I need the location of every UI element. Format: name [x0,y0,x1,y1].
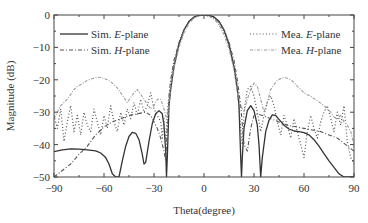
x-tick-label: 60 [299,182,311,194]
legend-label: Mea. E-plane [281,28,340,40]
x-tick-label: 90 [349,182,361,194]
y-tick-label: −40 [33,139,51,151]
legend-item: Sim. H-plane [60,44,150,56]
legend-label: Sim. E-plane [91,28,149,40]
y-tick-label: −50 [33,171,51,183]
y-tick-label: −10 [33,41,51,53]
x-tick-label: −60 [95,182,113,194]
legend-item: Mea. E-plane [250,28,340,40]
x-tick-label: −30 [145,182,163,194]
legend-item: Mea. H-plane [250,44,342,56]
y-tick-label: −20 [33,74,51,86]
y-axis-label: Magnitude (dB) [4,60,17,131]
legend-item: Sim. E-plane [60,28,149,40]
chart-canvas: −90−60−3003060900−10−20−30−40−50 Sim. E-… [0,0,368,223]
legend-label: Sim. H-plane [91,44,150,56]
legend-label: Mea. H-plane [281,44,342,56]
legend: Sim. E-planeSim. H-planeMea. E-planeMea.… [60,28,342,56]
x-tick-label: 0 [201,182,207,194]
x-tick-label: 30 [249,182,261,194]
x-axis-label: Theta(degree) [173,204,235,217]
radiation-pattern-chart: −90−60−3003060900−10−20−30−40−50 Sim. E-… [0,0,368,223]
y-tick-label: 0 [45,9,51,21]
y-tick-label: −30 [33,106,51,118]
x-tick-label: −90 [45,182,63,194]
